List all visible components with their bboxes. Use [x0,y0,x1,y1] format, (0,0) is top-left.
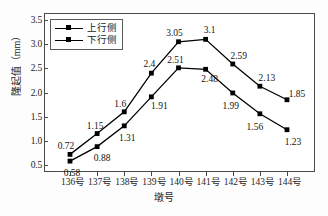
x-tick-mark [124,172,125,176]
x-tick-mark [287,172,288,176]
data-point-marker [203,67,208,72]
legend-label-1: 下行侧 [87,35,117,45]
data-value-label: 0.72 [51,141,81,151]
x-tick-label: 144号 [273,177,307,188]
data-point-marker [149,71,154,76]
data-point-marker [285,127,290,132]
data-value-label: 3.05 [160,28,190,38]
data-point-marker [68,159,73,164]
data-value-label: 1.99 [216,101,246,111]
data-value-label: 1.85 [282,89,312,99]
x-tick-mark [179,172,180,176]
y-tick-mark [44,20,48,21]
data-value-label: 2.59 [224,51,254,61]
data-point-marker [203,37,208,42]
data-point-marker [95,131,100,136]
x-tick-mark [206,172,207,176]
legend-marker-square-icon [55,35,83,45]
data-point-marker [68,152,73,157]
chart-legend: 上行侧 下行侧 [50,19,123,50]
data-value-label: 1.31 [112,133,142,143]
chart-figure: 0.51.01.52.02.53.03.5 隆起值（mm） 0.721.151.… [0,0,328,216]
y-tick-label: 1.5 [16,112,42,122]
data-point-marker [176,65,181,70]
data-value-label: 2.13 [252,73,282,83]
data-value-label: 2.51 [161,55,191,65]
y-tick-mark [44,141,48,142]
y-axis-title: 隆起值（mm） [11,16,22,112]
x-tick-mark [70,172,71,176]
x-axis-title: 墩号 [0,192,328,203]
y-tick-mark [44,44,48,45]
data-point-marker [122,123,127,128]
legend-marker-square-icon [55,23,83,33]
data-value-label: 1.91 [144,101,174,111]
data-point-marker [149,94,154,99]
data-value-label: 1.56 [240,122,270,132]
data-point-marker [230,62,235,67]
data-value-label: 0.88 [87,153,117,163]
data-point-marker [95,144,100,149]
y-tick-mark [44,117,48,118]
data-value-label: 1.15 [80,121,110,131]
legend-label-0: 上行侧 [87,23,117,33]
data-point-marker [176,39,181,44]
y-tick-mark [44,165,48,166]
y-tick-mark [44,93,48,94]
x-tick-mark [233,172,234,176]
data-point-marker [257,111,262,116]
x-tick-mark [260,172,261,176]
data-value-label: 1.23 [278,137,308,147]
y-tick-mark [44,68,48,69]
y-tick-label: 1.0 [16,136,42,146]
data-point-marker [122,109,127,114]
data-value-label: 2.48 [195,74,225,84]
x-tick-mark [97,172,98,176]
legend-item-1: 下行侧 [55,34,117,46]
x-tick-mark [151,172,152,176]
data-point-marker [230,91,235,96]
data-value-label: 1.6 [105,99,135,109]
y-tick-label: 0.5 [16,160,42,170]
data-point-marker [257,84,262,89]
data-value-label: 3.1 [195,25,225,35]
legend-item-0: 上行侧 [55,22,117,34]
